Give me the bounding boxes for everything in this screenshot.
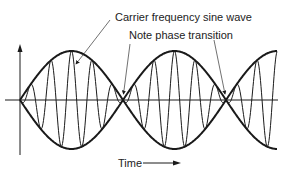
time-axis-label: Time bbox=[118, 157, 142, 169]
waveform-diagram bbox=[0, 0, 284, 175]
time-arrow-head-icon bbox=[173, 161, 181, 166]
phase-pointer-arrow-1 bbox=[124, 44, 131, 94]
carrier-pointer-arrow bbox=[76, 20, 110, 64]
carrier-frequency-label: Carrier frequency sine wave bbox=[115, 11, 252, 23]
phase-transition-label: Note phase transition bbox=[129, 29, 233, 41]
vertical-axis-arrow-icon bbox=[18, 44, 23, 52]
